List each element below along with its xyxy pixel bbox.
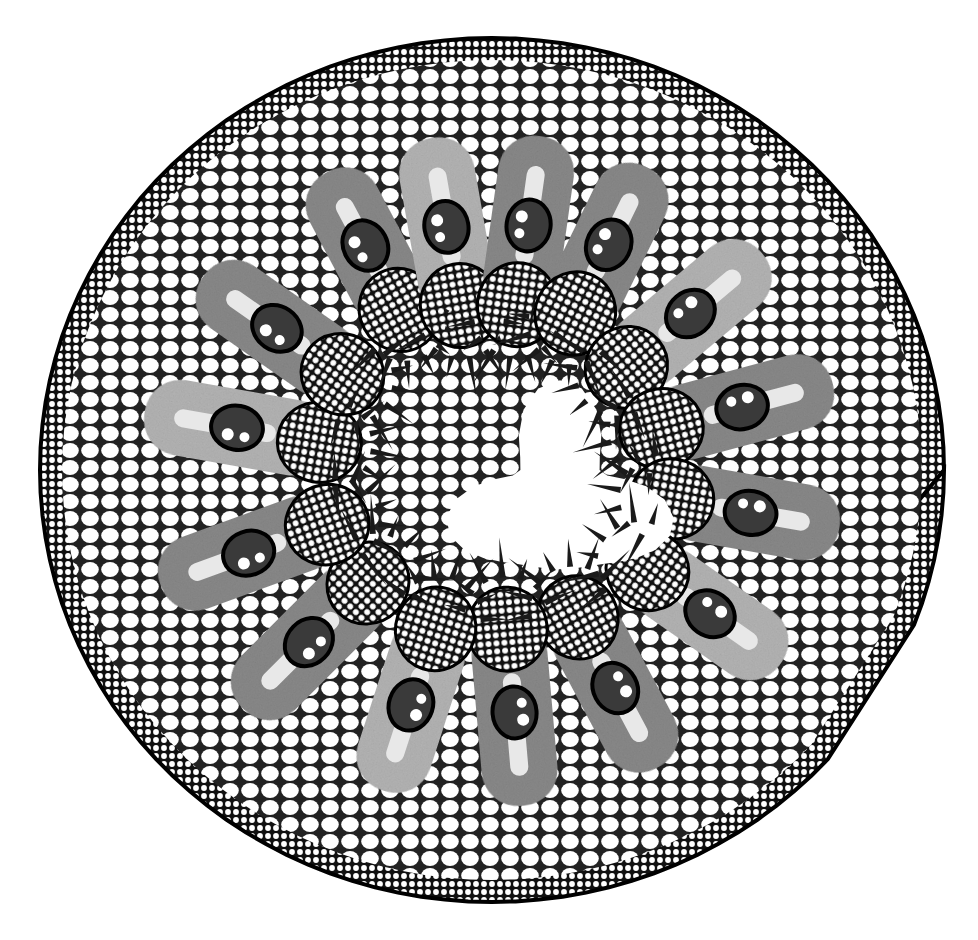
micrograph [0, 0, 978, 940]
leaf-body [40, 38, 944, 902]
leaf-cross-section [0, 0, 978, 940]
